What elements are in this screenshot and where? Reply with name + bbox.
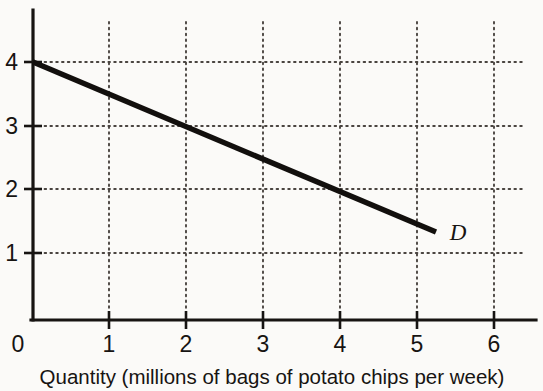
x-tick-label-5: 5	[411, 331, 424, 357]
y-tick-label-3: 3	[5, 113, 18, 139]
chart-canvas: 4 3 2 1 0 1 2 3 4 5 6 D Quantity (millio…	[0, 0, 543, 391]
x-tick-label-1: 1	[103, 331, 116, 357]
y-tick-label-4: 4	[5, 49, 18, 75]
demand-curve-line	[33, 62, 436, 232]
y-axis-tick-labels: 4 3 2 1	[5, 49, 18, 266]
vertical-gridlines	[109, 22, 494, 318]
x-tick-label-6: 6	[488, 331, 501, 357]
demand-curve-label: D	[449, 220, 467, 245]
demand-curve-figure: 4 3 2 1 0 1 2 3 4 5 6 D Quantity (millio…	[0, 0, 543, 391]
x-tick-label-0: 0	[12, 331, 25, 357]
x-axis-tick-labels: 0 1 2 3 4 5 6	[12, 331, 501, 357]
y-tick-label-1: 1	[5, 240, 18, 266]
x-tick-label-3: 3	[257, 331, 270, 357]
y-tick-label-2: 2	[5, 176, 18, 202]
x-tick-label-2: 2	[180, 331, 193, 357]
x-tick-label-4: 4	[334, 331, 347, 357]
x-axis-title: Quantity (millions of bags of potato chi…	[40, 365, 505, 388]
